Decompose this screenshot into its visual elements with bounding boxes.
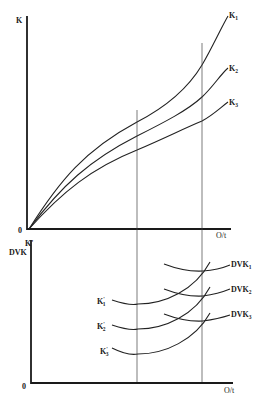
label-k2: K2 — [229, 64, 238, 74]
average-cost-curve-dvk3 — [164, 314, 230, 321]
bottom-y-axis-label-dvk: DVK — [9, 248, 28, 257]
total-cost-curve-k2 — [29, 68, 228, 229]
label-k3: K3 — [229, 98, 238, 108]
average-cost-curve-dvk1 — [164, 264, 230, 271]
bottom-origin-label: 0 — [22, 382, 26, 391]
top-panel: K 0 O/t K1 K2 K3 — [16, 11, 238, 240]
label-k3-prime: K'3 — [100, 346, 109, 357]
marginal-cost-curve-k2 — [112, 287, 210, 330]
marginal-cost-curve-k3 — [112, 313, 210, 354]
bottom-x-axis-label: O/t — [224, 386, 235, 395]
label-dvk1: DVK1 — [231, 260, 252, 270]
label-k2-prime: K'2 — [97, 321, 106, 332]
bottom-panel: K' DVK 0 O/t K'1 K'2 K'3 DVK1 DVK2 DVK3 — [9, 239, 252, 395]
top-x-axis-label: O/t — [216, 231, 227, 240]
label-k1-prime: K'1 — [97, 296, 106, 307]
average-cost-curve-dvk2 — [164, 289, 230, 296]
cost-curves-diagram: K 0 O/t K1 K2 K3 K' DVK 0 O/t K'1 K'2 K'… — [0, 0, 264, 401]
bottom-y-axis-label-k-prime: K' — [25, 239, 33, 248]
marginal-cost-curve-k1 — [112, 262, 210, 305]
total-cost-curve-k3 — [29, 102, 228, 229]
label-k1: K1 — [229, 11, 238, 21]
top-y-axis-label: K — [16, 16, 23, 25]
label-dvk2: DVK2 — [231, 285, 252, 295]
top-origin-label: 0 — [18, 226, 22, 235]
label-dvk3: DVK3 — [231, 310, 252, 320]
